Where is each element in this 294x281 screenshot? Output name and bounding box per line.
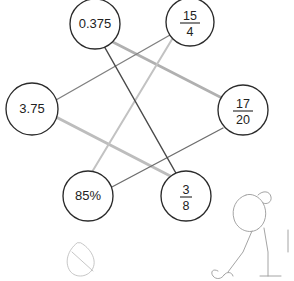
node-17-over-20-numerator: 17	[236, 97, 250, 111]
doodle-stick-figure	[212, 192, 288, 279]
node-85-percent-label: 85%	[75, 188, 101, 203]
node-0-375-label: 0.375	[79, 16, 112, 31]
node-3-over-8-denominator: 8	[183, 199, 190, 213]
node-17-over-20[interactable]: 17 20	[218, 85, 268, 135]
node-15-over-4-denominator: 4	[187, 25, 194, 39]
node-17-over-20-denominator: 20	[236, 113, 250, 127]
edge-3-75-to-15-over-4[interactable]	[56, 35, 170, 100]
node-3-over-8[interactable]: 3 8	[161, 171, 211, 221]
edge-layer	[56, 35, 223, 188]
node-15-over-4[interactable]: 15 4	[166, 0, 214, 46]
matching-diagram: 0.375 15 4 3.75 17 20 85%	[0, 0, 294, 281]
node-0-375[interactable]: 0.375	[70, 0, 120, 49]
node-3-75-label: 3.75	[19, 101, 44, 116]
node-3-over-8-numerator: 3	[183, 183, 190, 197]
node-15-over-4-numerator: 15	[183, 9, 197, 23]
edge-0-375-to-3-8[interactable]	[104, 46, 177, 175]
edge-0-375-to-17-over-20[interactable]	[105, 38, 222, 98]
node-85-percent[interactable]: 85%	[63, 171, 113, 221]
diagram-canvas: 0.375 15 4 3.75 17 20 85%	[0, 0, 294, 281]
edge-3-75-to-3-8[interactable]	[56, 117, 178, 180]
node-3-75[interactable]: 3.75	[6, 83, 58, 135]
edge-85-percent-to-17-over-20[interactable]	[110, 128, 223, 188]
node-layer: 0.375 15 4 3.75 17 20 85%	[6, 0, 268, 221]
doodle-leaf-loop	[67, 243, 94, 276]
